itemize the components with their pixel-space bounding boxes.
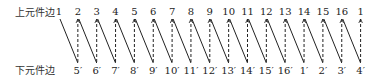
- top-node-label: 15: [317, 6, 330, 17]
- top-node-label: 3: [94, 6, 100, 17]
- top-node-label: 6: [150, 6, 156, 17]
- top-node-labels: 123456789101112131415161: [56, 6, 364, 17]
- solid-connection: [117, 19, 135, 63]
- top-node-label: 1: [56, 6, 62, 17]
- top-node-label: 11: [241, 6, 254, 17]
- bottom-node-label: 2′: [319, 65, 328, 76]
- bottom-node-label: 6′: [92, 65, 101, 76]
- solid-connection: [192, 19, 210, 63]
- top-node-label: 4: [112, 6, 118, 17]
- winding-connection-diagram: 上元件边 下元件边 123456789101112131415161 5′6′7…: [0, 0, 377, 81]
- bottom-node-label: 14′: [240, 65, 256, 76]
- bottom-node-label: 11′: [183, 65, 199, 76]
- top-node-label: 9: [207, 6, 213, 17]
- solid-connection: [154, 19, 172, 63]
- top-node-label: 10: [222, 6, 235, 17]
- bottom-node-label: 10′: [165, 65, 181, 76]
- top-node-label: 8: [188, 6, 194, 17]
- bottom-node-labels: 5′6′7′8′9′10′11′12′13′14′15′16′1′2′3′4′: [74, 65, 366, 76]
- solid-connection: [135, 19, 153, 63]
- bottom-node-label: 9′: [149, 65, 158, 76]
- bottom-node-label: 15′: [259, 65, 275, 76]
- bottom-node-label: 13′: [221, 65, 237, 76]
- solid-connection: [230, 19, 248, 63]
- connection-lines: [60, 19, 362, 63]
- solid-connection: [305, 19, 323, 63]
- solid-connection: [79, 19, 97, 63]
- bottom-node-label: 4′: [356, 65, 365, 76]
- bottom-node-label: 1′: [300, 65, 309, 76]
- top-row-label: 上元件边: [15, 7, 55, 18]
- solid-connection: [267, 19, 285, 63]
- solid-connection: [324, 19, 342, 63]
- bottom-node-label: 16′: [278, 65, 294, 76]
- solid-connection: [60, 19, 78, 63]
- top-node-label: 12: [260, 6, 273, 17]
- bottom-row-label: 下元件边: [15, 65, 55, 76]
- solid-connection: [249, 19, 267, 63]
- top-node-label: 14: [298, 6, 311, 17]
- solid-connection: [286, 19, 304, 63]
- bottom-node-label: 7′: [111, 65, 120, 76]
- top-node-label: 2: [75, 6, 81, 17]
- solid-connection: [211, 19, 229, 63]
- solid-connection: [343, 19, 361, 63]
- top-node-label: 7: [169, 6, 175, 17]
- top-node-label: 5: [131, 6, 137, 17]
- top-node-label: 13: [279, 6, 292, 17]
- bottom-node-label: 8′: [130, 65, 139, 76]
- bottom-node-label: 12′: [202, 65, 218, 76]
- top-node-label: 1: [357, 6, 363, 17]
- bottom-node-label: 5′: [74, 65, 83, 76]
- solid-connection: [173, 19, 191, 63]
- bottom-node-label: 3′: [337, 65, 346, 76]
- top-node-label: 16: [335, 6, 348, 17]
- solid-connection: [98, 19, 116, 63]
